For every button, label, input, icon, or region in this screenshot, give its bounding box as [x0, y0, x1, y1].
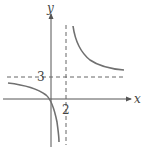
- x-tick-label-2: 2: [62, 103, 70, 117]
- x-axis-label: x: [134, 92, 141, 106]
- curve-right-branch: [73, 26, 124, 70]
- rational-function-graph: y x 3 2: [0, 0, 144, 158]
- y-tick-label-3: 3: [37, 70, 45, 84]
- y-axis-label: y: [46, 1, 54, 15]
